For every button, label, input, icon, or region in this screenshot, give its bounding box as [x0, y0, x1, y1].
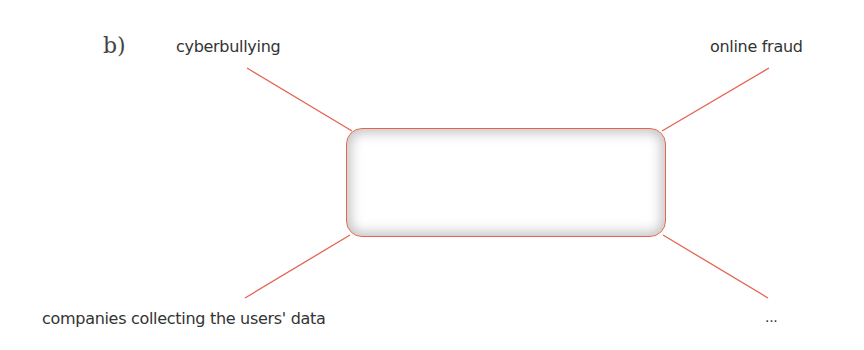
- connector-top-right: [662, 68, 769, 131]
- branch-label-cyberbullying: cyberbullying: [176, 37, 280, 56]
- branch-label-online-fraud: online fraud: [710, 37, 803, 56]
- connector-top-left: [247, 68, 352, 131]
- center-answer-box[interactable]: [346, 128, 666, 237]
- branch-label-ellipsis: ...: [765, 309, 777, 325]
- branch-label-companies-collecting-data: companies collecting the users' data: [42, 309, 326, 328]
- connector-bottom-left: [245, 235, 350, 298]
- connector-bottom-right: [663, 235, 768, 298]
